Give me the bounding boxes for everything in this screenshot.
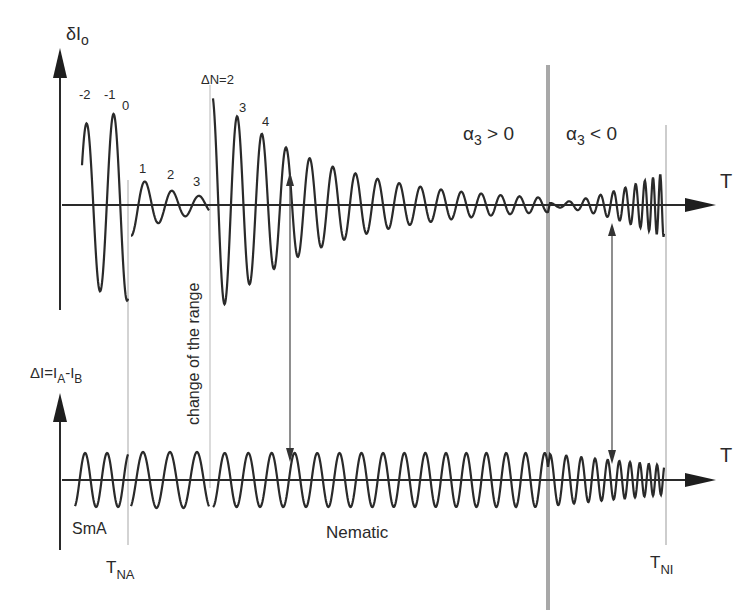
bottom-y-axis-label: ΔI=IA-IB bbox=[30, 364, 82, 386]
peak-label-2: 2 bbox=[167, 167, 174, 182]
arrow-up-icon-1 bbox=[286, 172, 294, 186]
alpha-negative-label: α3 < 0 bbox=[566, 123, 617, 148]
top-x-axis-label: T bbox=[720, 170, 732, 192]
peak-label-minus2: -2 bbox=[79, 87, 91, 102]
post-change-label-3: 3 bbox=[239, 100, 246, 115]
phase-smA-label: SmA bbox=[72, 520, 107, 537]
bottom-y-arrow-icon bbox=[53, 393, 67, 422]
alpha-positive-label: α3 > 0 bbox=[463, 123, 514, 148]
bottom-x-arrow-icon bbox=[685, 473, 716, 487]
peak-label-3: 3 bbox=[193, 174, 200, 189]
peak-label-1: 1 bbox=[139, 161, 146, 176]
t-na-label: TNA bbox=[106, 558, 135, 582]
post-change-label-4: 4 bbox=[262, 114, 269, 129]
phase-nematic-label: Nematic bbox=[326, 523, 389, 542]
bottom-x-axis-label: T bbox=[720, 444, 732, 466]
peak-label-0: 0 bbox=[122, 98, 129, 113]
top-y-axis-label: δIo bbox=[66, 24, 89, 48]
t-ni-label: TNI bbox=[650, 553, 673, 577]
delta-n-label: ΔN=2 bbox=[201, 72, 234, 87]
top-curve-damped-after-tna bbox=[131, 182, 209, 236]
arrow-up-icon-2 bbox=[608, 223, 616, 236]
top-x-arrow-icon bbox=[685, 198, 716, 212]
figure-canvas: δIo T -2 -1 0 1 2 3 ΔN=2 3 4 α3 > 0 α3 <… bbox=[0, 0, 750, 615]
top-y-arrow-icon bbox=[53, 48, 67, 78]
change-of-range-label: change of the range bbox=[185, 283, 202, 425]
top-curve-smectic bbox=[82, 114, 128, 301]
peak-label-minus1: -1 bbox=[104, 87, 116, 102]
